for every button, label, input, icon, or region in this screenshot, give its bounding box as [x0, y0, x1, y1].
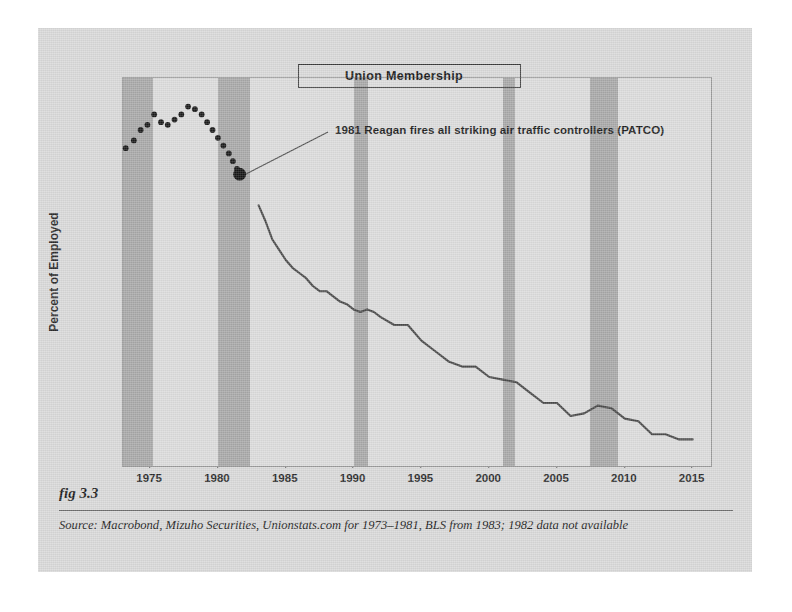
x-tick-label: 1980 — [204, 472, 230, 484]
x-tick-label: 2005 — [543, 472, 569, 484]
figure-number: fig 3.3 — [59, 485, 98, 502]
source-note: Source: Macrobond, Mizuho Securities, Un… — [59, 518, 628, 533]
x-tick-label: 2000 — [475, 472, 501, 484]
y-axis-label: Percent of Employed — [47, 212, 61, 331]
scatter-point — [230, 158, 236, 164]
x-tick-label: 1985 — [272, 472, 298, 484]
series-scatter — [123, 104, 243, 177]
scatter-point — [158, 119, 164, 125]
scatter-point — [210, 127, 216, 133]
scatter-point — [226, 151, 232, 157]
chart-title-box: Union Membership — [298, 64, 521, 88]
scatter-point — [204, 119, 210, 125]
x-tick-label: 1990 — [340, 472, 366, 484]
annotation-leader-line — [246, 132, 328, 174]
series-line — [259, 205, 693, 439]
scatter-point — [178, 112, 184, 118]
x-tick-label: 2015 — [679, 472, 705, 484]
scatter-point — [192, 106, 198, 112]
scatter-point — [145, 122, 151, 128]
x-tick-label: 2010 — [611, 472, 637, 484]
patco-marker — [233, 168, 246, 181]
chart-title: Union Membership — [345, 69, 463, 83]
caption-divider — [59, 510, 733, 511]
x-tick-label: 1975 — [136, 472, 162, 484]
scatter-point — [165, 122, 171, 128]
scatter-point — [151, 112, 157, 118]
chart-canvas — [123, 78, 713, 468]
patco-annotation-text: 1981 Reagan fires all striking air traff… — [335, 124, 664, 136]
scatter-point — [131, 138, 137, 144]
figure-container: Percent of Employed 10.012.515.017.520.0… — [38, 28, 752, 572]
scatter-point — [123, 145, 129, 151]
x-tick-label: 1995 — [408, 472, 434, 484]
scatter-point — [199, 112, 205, 118]
scatter-point — [172, 117, 178, 123]
scatter-point — [220, 143, 226, 149]
scatter-point — [185, 104, 191, 110]
scatter-point — [138, 127, 144, 133]
scatter-point — [215, 135, 221, 141]
